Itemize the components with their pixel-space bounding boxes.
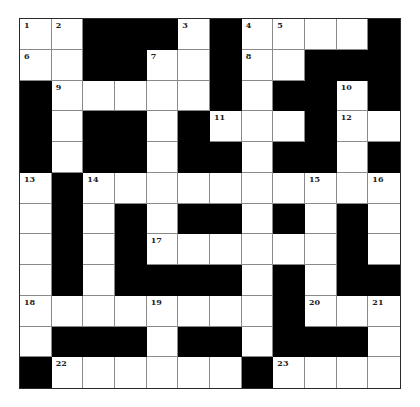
crossword-cell[interactable]: 3 [178,19,210,50]
crossword-cell[interactable] [337,296,369,327]
crossword-cell[interactable] [178,296,210,327]
crossword-cell[interactable] [52,296,84,327]
crossword-cell[interactable]: 11 [210,111,242,142]
clue-number: 10 [341,83,352,91]
black-square [337,327,369,358]
crossword-cell[interactable]: 12 [337,111,369,142]
crossword-cell[interactable]: 1 [20,19,52,50]
crossword-cell[interactable]: 19 [147,296,179,327]
crossword-cell[interactable] [52,111,84,142]
crossword-cell[interactable] [368,327,400,358]
black-square [83,111,115,142]
crossword-cell[interactable]: 7 [147,50,179,81]
crossword-cell[interactable] [242,296,274,327]
crossword-cell[interactable] [147,327,179,358]
clue-number: 2 [56,21,62,29]
crossword-cell[interactable]: 15 [305,173,337,204]
crossword-cell[interactable] [147,173,179,204]
crossword-cell[interactable] [305,357,337,388]
crossword-cell[interactable] [147,142,179,173]
crossword-cell[interactable] [52,142,84,173]
crossword-cell[interactable] [242,234,274,265]
black-square [115,265,147,296]
crossword-cell[interactable] [242,173,274,204]
crossword-cell[interactable] [337,142,369,173]
crossword-cell[interactable]: 22 [52,357,84,388]
crossword-cell[interactable] [337,357,369,388]
crossword-cell[interactable] [273,173,305,204]
crossword-cell[interactable] [368,111,400,142]
crossword-cell[interactable]: 2 [52,19,84,50]
crossword-cell[interactable] [20,327,52,358]
crossword-cell[interactable]: 4 [242,19,274,50]
black-square [210,81,242,112]
crossword-cell[interactable] [178,81,210,112]
crossword-cell[interactable] [337,19,369,50]
crossword-cell[interactable]: 9 [52,81,84,112]
crossword-cell[interactable] [305,19,337,50]
crossword-cell[interactable]: 14 [83,173,115,204]
crossword-cell[interactable] [115,357,147,388]
crossword-cell[interactable] [242,265,274,296]
crossword-cell[interactable] [368,357,400,388]
black-square [52,327,84,358]
crossword-cell[interactable] [83,296,115,327]
crossword-cell[interactable]: 16 [368,173,400,204]
crossword-cell[interactable] [210,357,242,388]
crossword-cell[interactable] [20,265,52,296]
crossword-cell[interactable] [305,265,337,296]
crossword-cell[interactable] [178,50,210,81]
crossword-cell[interactable] [178,173,210,204]
crossword-cell[interactable] [210,296,242,327]
crossword-cell[interactable] [273,50,305,81]
crossword-cell[interactable] [115,173,147,204]
crossword-cell[interactable] [83,357,115,388]
crossword-cell[interactable]: 23 [273,357,305,388]
crossword-cell[interactable] [20,204,52,235]
black-square [115,50,147,81]
crossword-cell[interactable] [368,234,400,265]
crossword-cell[interactable]: 21 [368,296,400,327]
crossword-cell[interactable]: 8 [242,50,274,81]
crossword-cell[interactable] [337,173,369,204]
crossword-cell[interactable] [83,204,115,235]
crossword-cell[interactable]: 10 [337,81,369,112]
crossword-cell[interactable] [305,234,337,265]
crossword-cell[interactable] [52,50,84,81]
crossword-cell[interactable]: 18 [20,296,52,327]
crossword-cell[interactable] [147,81,179,112]
crossword-cell[interactable] [178,357,210,388]
crossword-cell[interactable] [242,142,274,173]
black-square [210,19,242,50]
crossword-cell[interactable] [147,111,179,142]
crossword-cell[interactable] [20,234,52,265]
crossword-cell[interactable] [242,327,274,358]
crossword-cell[interactable]: 20 [305,296,337,327]
clue-number: 21 [372,298,383,306]
crossword-cell[interactable] [115,81,147,112]
crossword-cell[interactable] [178,234,210,265]
crossword-cell[interactable]: 17 [147,234,179,265]
black-square [115,19,147,50]
crossword-cell[interactable] [368,204,400,235]
crossword-cell[interactable] [83,234,115,265]
crossword-cell[interactable]: 5 [273,19,305,50]
crossword-cell[interactable] [273,234,305,265]
crossword-cell[interactable] [83,265,115,296]
crossword-cell[interactable] [83,81,115,112]
clue-number: 11 [214,113,225,121]
crossword-cell[interactable] [242,204,274,235]
crossword-cell[interactable] [147,357,179,388]
crossword-cell[interactable] [115,296,147,327]
clue-number: 8 [246,52,252,60]
crossword-cell[interactable] [273,111,305,142]
crossword-cell[interactable] [210,234,242,265]
black-square [115,234,147,265]
crossword-cell[interactable] [242,81,274,112]
crossword-cell[interactable]: 13 [20,173,52,204]
crossword-cell[interactable] [147,204,179,235]
crossword-cell[interactable]: 6 [20,50,52,81]
crossword-cell[interactable] [210,173,242,204]
crossword-cell[interactable] [242,111,274,142]
crossword-cell[interactable] [305,204,337,235]
